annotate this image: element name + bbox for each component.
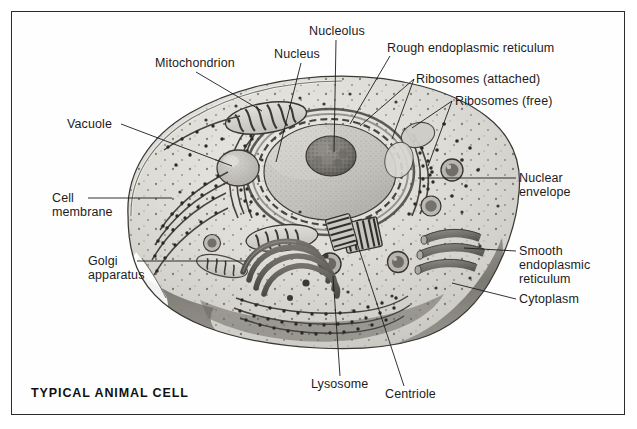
nucleolus-shape — [306, 136, 356, 176]
label-nuclear-envelope-line1: Nuclear — [519, 171, 563, 185]
figure-page: Mitochondrion Vacuole Cell membrane Golg… — [0, 0, 637, 429]
figure-caption: TYPICAL ANIMAL CELL — [31, 386, 189, 400]
label-lysosome: Lysosome — [311, 377, 368, 391]
label-smooth-er-line2: endoplasmic — [519, 258, 590, 272]
label-nucleolus: Nucleolus — [309, 24, 365, 38]
label-golgi-line2: apparatus — [88, 268, 145, 282]
label-ribosomes-attached: Ribosomes (attached) — [416, 72, 540, 86]
label-cytoplasm: Cytoplasm — [519, 292, 579, 306]
label-centriole: Centriole — [385, 387, 436, 401]
lysosome-mid — [421, 196, 441, 216]
label-nuclear-envelope-line2: envelope — [519, 185, 571, 199]
lysosome-left — [204, 235, 221, 252]
label-mitochondrion: Mitochondrion — [155, 56, 235, 70]
label-rough-er: Rough endoplasmic reticulum — [387, 41, 554, 55]
label-cell-membrane-line2: membrane — [52, 205, 113, 219]
label-golgi-line1: Golgi — [88, 254, 118, 268]
label-smooth-er-line1: Smooth — [519, 244, 563, 258]
label-nucleus: Nucleus — [274, 47, 320, 61]
label-vacuole: Vacuole — [67, 117, 112, 131]
vacuole — [217, 150, 259, 186]
label-cell-membrane-line1: Cell — [52, 191, 74, 205]
label-ribosomes-free: Ribosomes (free) — [455, 94, 552, 108]
label-smooth-er-line3: reticulum — [519, 272, 571, 286]
lysosome-lower-right — [388, 252, 409, 273]
